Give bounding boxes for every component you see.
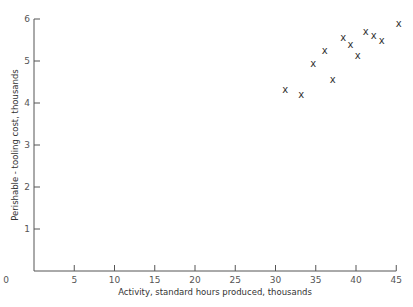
y-tick-label: 2 (24, 182, 30, 192)
y-tick-label: 5 (24, 56, 30, 66)
data-point-x-marker: x (322, 45, 328, 56)
axes: 051015202530354045123456 (3, 14, 402, 285)
data-point-x-marker: x (298, 89, 304, 100)
data-point-x-marker: x (363, 26, 369, 37)
y-axis-title: Perishable - tooling cost, thousands (10, 69, 20, 221)
y-tick-label: 3 (24, 140, 30, 150)
x-tick-label: 40 (350, 275, 362, 285)
x-axis-title: Activity, standard hours produced, thous… (118, 287, 312, 297)
data-point-x-marker: x (330, 74, 336, 85)
data-point-x-marker: x (282, 84, 288, 95)
data-point-x-marker: x (379, 35, 385, 46)
data-point-x-marker: x (340, 32, 346, 43)
y-tick-label: 1 (24, 224, 30, 234)
x-tick-label: 35 (310, 275, 321, 285)
x-tick-label: 30 (270, 275, 282, 285)
x-tick-label: 5 (71, 275, 77, 285)
data-points: xxxxxxxxxxxx (282, 18, 402, 100)
x-tick-label: 25 (230, 275, 241, 285)
data-point-x-marker: x (347, 39, 353, 50)
x-tick-label: 20 (189, 275, 201, 285)
x-tick-label: 10 (109, 275, 121, 285)
data-point-x-marker: x (310, 58, 316, 69)
x-tick-label: 0 (3, 275, 9, 285)
y-tick-label: 4 (24, 98, 30, 108)
data-point-x-marker: x (355, 50, 361, 61)
x-tick-label: 45 (391, 275, 402, 285)
data-point-x-marker: x (371, 30, 377, 41)
data-point-x-marker: x (396, 18, 402, 29)
x-tick-label: 15 (149, 275, 160, 285)
scatter-chart: 051015202530354045123456 xxxxxxxxxxxx Ac… (0, 0, 413, 307)
y-tick-label: 6 (24, 14, 30, 24)
